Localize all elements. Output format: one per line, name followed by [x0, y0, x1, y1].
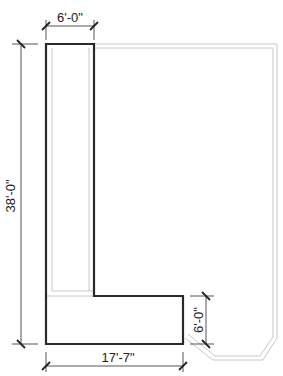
- dimension-label-top: 6'-0": [57, 10, 83, 25]
- dimension-label-left: 38'-0": [3, 179, 18, 213]
- l-shaped-area: [46, 44, 183, 344]
- floor-plan-diagram: 6'-0" 38'-0" 17'-7" 6'-0": [0, 0, 283, 376]
- dimension-label-bottom: 17'-7": [101, 350, 135, 365]
- dimension-label-right: 6'-0": [191, 307, 206, 333]
- l-shape-inner-lines: [46, 48, 183, 296]
- room-boundary: [46, 44, 277, 360]
